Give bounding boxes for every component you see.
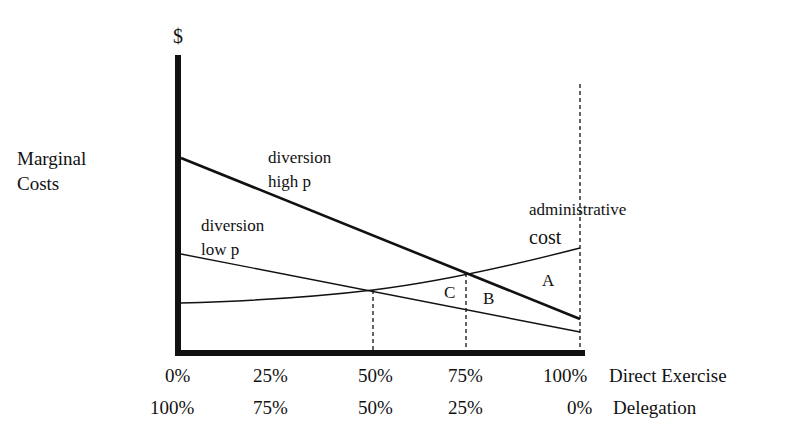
tick-direct-100: 100% (543, 366, 587, 385)
curve-diversion-high-p (181, 158, 580, 319)
tick-delegation-50: 50% (358, 398, 393, 417)
tick-delegation-0: 0% (567, 398, 592, 417)
label-high-p-line1: diversion (268, 149, 331, 166)
region-label-a: A (542, 272, 554, 289)
y-axis-symbol: $ (173, 26, 183, 46)
tick-direct-50: 50% (358, 366, 393, 385)
tick-delegation-25: 25% (448, 398, 483, 417)
axis-label-delegation: Delegation (613, 398, 696, 417)
tick-direct-75: 75% (448, 366, 483, 385)
curve-diversion-low-p (181, 254, 580, 332)
label-low-p-line1: diversion (201, 217, 264, 234)
tick-direct-0: 0% (165, 366, 190, 385)
y-axis-label-line2: Costs (17, 174, 59, 193)
tick-delegation-100: 100% (150, 398, 194, 417)
label-admin-line1: administrative (529, 201, 626, 218)
axis-label-direct-exercise: Direct Exercise (609, 366, 727, 385)
tick-direct-25: 25% (253, 366, 288, 385)
label-admin-line2: cost (529, 227, 561, 247)
region-label-b: B (483, 290, 494, 307)
y-axis-label-line1: Marginal (17, 149, 86, 168)
region-label-c: C (444, 284, 455, 301)
label-low-p-line2: low p (201, 241, 239, 258)
label-high-p-line2: high p (268, 173, 311, 190)
tick-delegation-75: 75% (253, 398, 288, 417)
